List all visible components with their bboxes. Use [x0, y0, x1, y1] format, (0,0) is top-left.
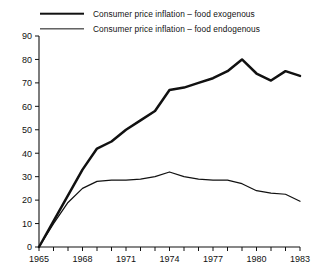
x-tick-label: 1974: [159, 254, 179, 264]
x-axis-ticks: [39, 247, 300, 251]
y-tick-label: 70: [22, 78, 32, 88]
x-tick-label: 1965: [29, 254, 49, 264]
y-tick-label: 80: [22, 55, 32, 65]
legend-item-exogenous: Consumer price inflation – food exogenou…: [40, 6, 315, 21]
x-tick-label: 1980: [246, 254, 266, 264]
y-axis-tick-labels: 0102030405060708090: [22, 31, 32, 252]
series-line-endogenous: [39, 172, 300, 247]
legend-label-exogenous: Consumer price inflation – food exogenou…: [84, 9, 255, 19]
y-axis-ticks: [35, 36, 39, 247]
x-tick-label: 1971: [116, 254, 136, 264]
y-tick-label: 0: [27, 242, 32, 252]
x-axis: 1965196819711974197719801983: [29, 247, 310, 264]
legend-line-swatch-exogenous: [40, 9, 84, 19]
y-tick-label: 60: [22, 102, 32, 112]
y-tick-label: 20: [22, 195, 32, 205]
chart-plot-area: 0102030405060708090 19651968197119741977…: [0, 30, 319, 276]
x-tick-label: 1983: [290, 254, 310, 264]
chart-page: Consumer price inflation – food exogenou…: [0, 0, 319, 276]
x-tick-label: 1977: [203, 254, 223, 264]
line-chart-svg: 0102030405060708090 19651968197119741977…: [0, 30, 319, 276]
y-axis: 0102030405060708090: [22, 31, 39, 252]
y-tick-label: 50: [22, 125, 32, 135]
y-tick-label: 40: [22, 149, 32, 159]
x-tick-label: 1968: [72, 254, 92, 264]
y-tick-label: 90: [22, 31, 32, 41]
series-line-exogenous: [39, 59, 300, 247]
data-series-group: [39, 59, 300, 247]
x-axis-tick-labels: 1965196819711974197719801983: [29, 254, 310, 264]
y-tick-label: 10: [22, 219, 32, 229]
y-tick-label: 30: [22, 172, 32, 182]
